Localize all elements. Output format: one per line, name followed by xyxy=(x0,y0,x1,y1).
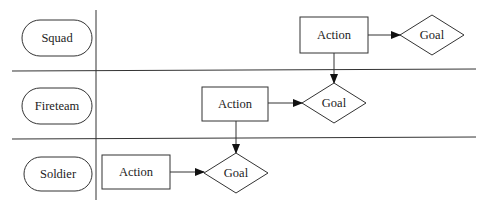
squad-goal-diamond xyxy=(400,15,464,55)
lane-pill-soldier xyxy=(24,157,92,191)
fireteam-action-box xyxy=(202,87,268,121)
lane-pill-squad xyxy=(22,20,92,56)
lane-divider-2 xyxy=(12,137,476,139)
soldier-action-box xyxy=(102,155,170,189)
fireteam-goal-diamond xyxy=(302,83,366,123)
lane-divider-1 xyxy=(12,69,476,71)
soldier-goal-diamond xyxy=(204,153,268,193)
squad-action-box xyxy=(300,17,368,53)
lane-pill-fireteam xyxy=(22,88,92,124)
swimlane-diagram: Squad Fireteam Soldier Action Goal Actio… xyxy=(0,0,488,208)
diagram-graphics xyxy=(0,0,488,208)
